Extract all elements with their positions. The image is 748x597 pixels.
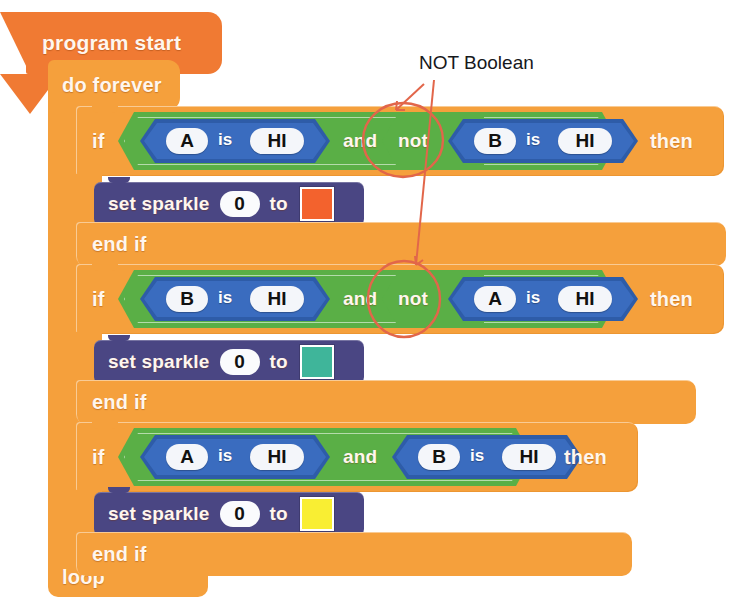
color-swatch-3[interactable] <box>300 497 334 531</box>
sparkle-index-2[interactable]: 0 <box>220 349 260 375</box>
pin-a-pill-3[interactable]: A <box>166 444 208 470</box>
block-program-canvas: program start do forever loop if A is HI… <box>0 0 748 597</box>
and-label-2: and <box>343 277 377 321</box>
to-label-1: to <box>270 193 288 215</box>
to-label-3: to <box>270 503 288 525</box>
is-label-2b: is <box>526 288 540 308</box>
then-label-3: then <box>564 422 607 492</box>
end-if-label-1: end if <box>92 222 147 266</box>
is-label-1: is <box>218 130 232 150</box>
level-hi-pill-1b[interactable]: HI <box>558 128 612 154</box>
pin-b-pill-3[interactable]: B <box>418 444 460 470</box>
pin-b-pill-2[interactable]: B <box>166 286 208 312</box>
compare-b-is-hi-3[interactable]: B is HI <box>392 435 582 479</box>
level-hi-pill-3b[interactable]: HI <box>502 444 556 470</box>
pin-b-pill-1[interactable]: B <box>474 128 516 154</box>
pin-a-pill-1[interactable]: A <box>166 128 208 154</box>
level-hi-pill-3[interactable]: HI <box>250 444 304 470</box>
if-label-1: if <box>92 106 105 176</box>
end-if-label-2: end if <box>92 380 147 424</box>
is-label-2: is <box>218 288 232 308</box>
not-label-1: not <box>398 117 428 165</box>
is-label-3: is <box>218 446 232 466</box>
then-label-2: then <box>650 264 693 334</box>
do-forever-label: do forever <box>62 62 162 108</box>
set-sparkle-block-1[interactable]: set sparkle 0 to <box>94 182 364 226</box>
set-sparkle-label-3: set sparkle <box>108 503 210 525</box>
end-if-label-3: end if <box>92 532 147 576</box>
then-label-1: then <box>650 106 693 176</box>
level-hi-pill-2b[interactable]: HI <box>558 286 612 312</box>
color-swatch-2[interactable] <box>300 345 334 379</box>
end-if-row-1[interactable] <box>76 222 726 266</box>
compare-b-is-hi-2[interactable]: B is HI <box>140 277 330 321</box>
to-label-2: to <box>270 351 288 373</box>
set-sparkle-block-3[interactable]: set sparkle 0 to <box>94 492 364 536</box>
compare-a-is-hi-1[interactable]: A is HI <box>140 119 330 163</box>
compare-b-is-hi-1[interactable]: B is HI <box>448 119 638 163</box>
set-sparkle-label-1: set sparkle <box>108 193 210 215</box>
set-sparkle-block-2[interactable]: set sparkle 0 to <box>94 340 364 384</box>
sparkle-index-3[interactable]: 0 <box>220 501 260 527</box>
is-label-1b: is <box>526 130 540 150</box>
if-label-3: if <box>92 422 105 492</box>
sparkle-index-1[interactable]: 0 <box>220 191 260 217</box>
end-if-row-3[interactable] <box>76 532 632 576</box>
and-label-1: and <box>343 119 377 163</box>
color-swatch-1[interactable] <box>300 187 334 221</box>
is-label-3b: is <box>470 446 484 466</box>
and-label-3: and <box>343 435 377 479</box>
compare-a-is-hi-2[interactable]: A is HI <box>448 277 638 321</box>
if-label-2: if <box>92 264 105 334</box>
level-hi-pill-2[interactable]: HI <box>250 286 304 312</box>
compare-a-is-hi-3[interactable]: A is HI <box>140 435 330 479</box>
set-sparkle-label-2: set sparkle <box>108 351 210 373</box>
end-if-row-2[interactable] <box>76 380 696 424</box>
not-label-2: not <box>398 275 428 323</box>
not-boolean-annotation-label: NOT Boolean <box>419 52 534 74</box>
pin-a-pill-2[interactable]: A <box>474 286 516 312</box>
level-hi-pill-1[interactable]: HI <box>250 128 304 154</box>
